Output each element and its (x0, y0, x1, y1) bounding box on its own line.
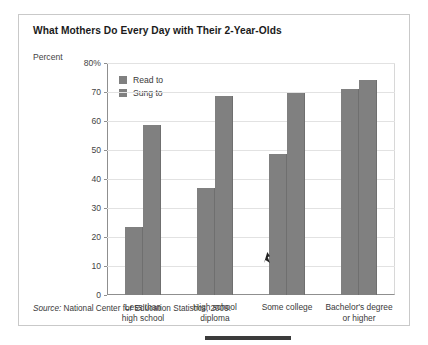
x-axis-category-label: Some college (251, 302, 323, 313)
source-note: Source: National Center for Education St… (33, 304, 231, 313)
bar-sung-to (359, 80, 377, 295)
bar-read-to (269, 154, 287, 295)
y-axis-tick-label: 40 (91, 174, 101, 184)
y-axis-tick-mark (104, 150, 107, 151)
y-axis-tick-label: 80% (84, 58, 101, 68)
page-title: What Mothers Do Every Day with Their 2-Y… (33, 25, 282, 36)
y-axis-tick-mark (104, 63, 107, 64)
source-text: National Center for Education Statistics… (64, 304, 231, 313)
source-prefix: Source: (33, 304, 61, 313)
bar-group (269, 63, 305, 295)
y-axis-tick-label: 50 (91, 145, 101, 155)
y-axis-tick-label: 0 (96, 290, 101, 300)
x-axis-category-label: Bachelor's degreeor higher (323, 302, 395, 323)
y-axis-unit-label: Percent (33, 52, 63, 62)
bar-sung-to (215, 96, 233, 295)
y-axis-tick-mark (104, 237, 107, 238)
bar-group (341, 63, 377, 295)
y-axis-tick-mark (104, 295, 107, 296)
y-axis-tick-mark (104, 92, 107, 93)
plot-area: 01020304050607080% Less thanhigh schoolH… (107, 63, 395, 295)
y-axis-tick-label: 30 (91, 203, 101, 213)
bar-sung-to (287, 93, 305, 295)
y-axis-tick-mark (104, 179, 107, 180)
y-axis-tick-label: 10 (91, 261, 101, 271)
bar-group (125, 63, 161, 295)
y-axis-tick-mark (104, 208, 107, 209)
page-rule (205, 336, 291, 340)
bar-read-to (197, 188, 215, 295)
y-axis-tick-mark (104, 121, 107, 122)
bar-read-to (341, 89, 359, 295)
bar-read-to (125, 227, 143, 295)
y-axis-tick-label: 60 (91, 116, 101, 126)
y-axis-tick-label: 20 (91, 232, 101, 242)
bar-sung-to (143, 125, 161, 295)
y-axis-tick-mark (104, 266, 107, 267)
bar-group (197, 63, 233, 295)
y-axis-tick-label: 70 (91, 87, 101, 97)
figure-card: What Mothers Do Every Day with Their 2-Y… (18, 14, 410, 326)
